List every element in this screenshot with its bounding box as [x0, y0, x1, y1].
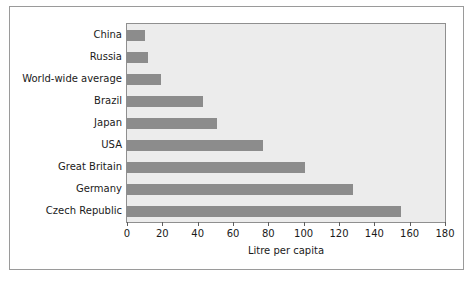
- tick-label: 120: [329, 228, 348, 239]
- tick-label: 100: [294, 228, 313, 239]
- category-label: Great Britain: [0, 156, 127, 178]
- tick-mark: [127, 222, 128, 226]
- bar-row: Germany: [127, 178, 445, 200]
- bar: [127, 140, 263, 151]
- bar-row: USA: [127, 134, 445, 156]
- category-label: China: [0, 24, 127, 46]
- bar-row: China: [127, 24, 445, 46]
- bar-row: Japan: [127, 112, 445, 134]
- bar: [127, 30, 145, 41]
- plot-area: ChinaRussiaWorld-wide averageBrazilJapan…: [126, 23, 446, 223]
- tick-mark: [198, 222, 199, 226]
- bar-row: Brazil: [127, 90, 445, 112]
- tick-mark: [374, 222, 375, 226]
- tick-mark: [304, 222, 305, 226]
- bar: [127, 52, 148, 63]
- bar: [127, 96, 203, 107]
- category-label: Japan: [0, 112, 127, 134]
- category-label: USA: [0, 134, 127, 156]
- category-label: World-wide average: [0, 68, 127, 90]
- category-label: Germany: [0, 178, 127, 200]
- tick-label: 180: [435, 228, 454, 239]
- tick-label: 160: [400, 228, 419, 239]
- chart-figure: ChinaRussiaWorld-wide averageBrazilJapan…: [9, 6, 464, 270]
- bar: [127, 118, 217, 129]
- tick-label: 60: [227, 228, 240, 239]
- tick-mark: [268, 222, 269, 226]
- bar: [127, 184, 353, 195]
- category-label: Czech Republic: [0, 200, 127, 222]
- bar: [127, 74, 161, 85]
- tick-label: 20: [156, 228, 169, 239]
- tick-label: 40: [191, 228, 204, 239]
- tick-mark: [233, 222, 234, 226]
- tick-mark: [339, 222, 340, 226]
- tick-label: 0: [124, 228, 130, 239]
- category-label: Brazil: [0, 90, 127, 112]
- bar-row: Russia: [127, 46, 445, 68]
- tick-mark: [162, 222, 163, 226]
- tick-label: 80: [262, 228, 275, 239]
- category-label: Russia: [0, 46, 127, 68]
- bar-row: Great Britain: [127, 156, 445, 178]
- bar: [127, 162, 305, 173]
- tick-mark: [410, 222, 411, 226]
- bar: [127, 206, 401, 217]
- tick-mark: [445, 222, 446, 226]
- bar-row: Czech Republic: [127, 200, 445, 222]
- tick-label: 140: [365, 228, 384, 239]
- x-axis-title: Litre per capita: [126, 245, 446, 256]
- bar-row: World-wide average: [127, 68, 445, 90]
